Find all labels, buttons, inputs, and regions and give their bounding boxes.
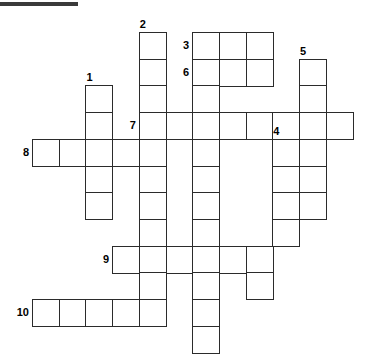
crossword-cell[interactable] — [192, 326, 220, 354]
crossword-cell[interactable] — [166, 112, 194, 140]
crossword-cell[interactable] — [139, 59, 167, 87]
clue-number-5: 5 — [300, 46, 312, 57]
crossword-cell[interactable] — [192, 59, 220, 87]
clue-number-10: 10 — [11, 307, 29, 318]
crossword-cell[interactable] — [85, 139, 113, 167]
crossword-cell[interactable] — [32, 139, 60, 167]
clue-number-6: 6 — [177, 67, 189, 78]
crossword-cell[interactable] — [139, 85, 167, 113]
crossword-cell[interactable] — [32, 299, 60, 327]
crossword-cell[interactable] — [112, 246, 140, 274]
header-rule — [0, 2, 78, 6]
crossword-cell[interactable] — [326, 112, 354, 140]
crossword-cell[interactable] — [246, 272, 274, 300]
crossword-cell[interactable] — [139, 219, 167, 247]
crossword-cell[interactable] — [272, 139, 300, 167]
clue-number-8: 8 — [17, 147, 29, 158]
crossword-cell[interactable] — [272, 219, 300, 247]
crossword-cell[interactable] — [166, 246, 194, 274]
crossword-cell[interactable] — [192, 166, 220, 194]
crossword-cell[interactable] — [139, 246, 167, 274]
clue-number-3: 3 — [177, 40, 189, 51]
crossword-cell[interactable] — [192, 85, 220, 113]
crossword-cell[interactable] — [192, 246, 220, 274]
clue-number-2: 2 — [140, 19, 152, 30]
crossword-cell[interactable] — [219, 59, 247, 87]
crossword-cell[interactable] — [192, 219, 220, 247]
crossword-cell[interactable] — [246, 112, 274, 140]
crossword-cell[interactable] — [192, 272, 220, 300]
crossword-cell[interactable] — [139, 139, 167, 167]
crossword-cell[interactable] — [246, 59, 274, 87]
crossword-cell[interactable] — [139, 32, 167, 60]
crossword-cell[interactable] — [139, 166, 167, 194]
crossword-cell[interactable] — [299, 85, 327, 113]
crossword-cell[interactable] — [112, 139, 140, 167]
crossword-cell[interactable] — [139, 299, 167, 327]
crossword-cell[interactable] — [299, 166, 327, 194]
crossword-cell[interactable] — [272, 192, 300, 220]
crossword-cell[interactable] — [299, 112, 327, 140]
crossword-cell[interactable] — [139, 192, 167, 220]
crossword-cell[interactable] — [299, 59, 327, 87]
crossword-cell[interactable] — [246, 246, 274, 274]
crossword-cell[interactable] — [219, 32, 247, 60]
crossword-cell[interactable] — [85, 192, 113, 220]
crossword-cell[interactable] — [192, 32, 220, 60]
crossword-cell[interactable] — [219, 246, 247, 274]
crossword-cell[interactable] — [85, 166, 113, 194]
crossword-cell[interactable] — [85, 299, 113, 327]
crossword-cell[interactable] — [192, 139, 220, 167]
crossword-cell[interactable] — [192, 192, 220, 220]
clue-number-4: 4 — [273, 126, 285, 137]
crossword-cell[interactable] — [59, 299, 87, 327]
crossword-cell[interactable] — [299, 139, 327, 167]
crossword-cell[interactable] — [85, 85, 113, 113]
crossword-cell[interactable] — [192, 112, 220, 140]
crossword-cell[interactable] — [246, 32, 274, 60]
crossword-cell[interactable] — [112, 299, 140, 327]
crossword-cell[interactable] — [139, 272, 167, 300]
clue-number-9: 9 — [97, 254, 109, 265]
clue-number-1: 1 — [86, 72, 98, 83]
clue-number-7: 7 — [124, 120, 136, 131]
crossword-cell[interactable] — [139, 112, 167, 140]
crossword-cell[interactable] — [59, 139, 87, 167]
crossword-cell[interactable] — [85, 112, 113, 140]
crossword-cell[interactable] — [272, 166, 300, 194]
crossword-cell[interactable] — [299, 192, 327, 220]
crossword-cell[interactable] — [219, 112, 247, 140]
crossword-cell[interactable] — [192, 299, 220, 327]
